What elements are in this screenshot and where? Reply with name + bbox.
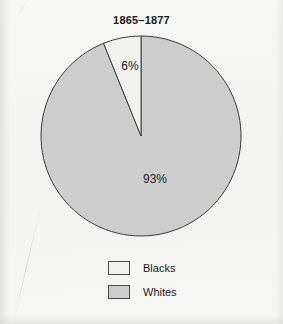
chart-page: 1865–1877 6% 93% Blacks Whites [0,0,283,324]
legend-swatch-blacks-icon [108,261,130,275]
legend-item-blacks[interactable]: Blacks [108,258,228,277]
legend-label-blacks: Blacks [143,262,175,274]
pie-slice-label-blacks: 6% [121,59,139,73]
pie-slice-label-whites: 93% [143,172,167,186]
legend-label-whites: Whites [143,286,177,298]
legend-swatch-whites-icon [108,285,130,299]
legend-item-whites[interactable]: Whites [108,282,228,301]
chart-legend: Blacks Whites [108,258,228,306]
